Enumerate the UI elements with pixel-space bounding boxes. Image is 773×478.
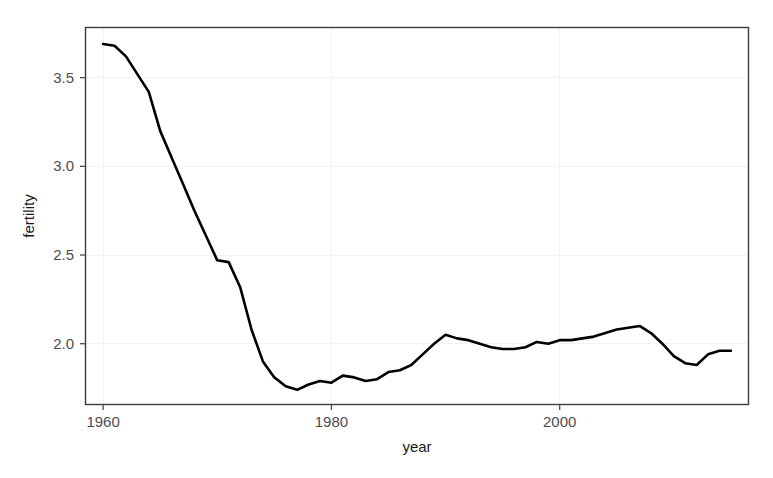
y-axis-title: fertility bbox=[20, 194, 37, 238]
x-tick-label: 1960 bbox=[86, 413, 119, 430]
chart-page: 196019802000 2.02.53.03.5 year fertility bbox=[0, 0, 773, 478]
y-tick-label: 2.5 bbox=[53, 246, 74, 263]
y-tick-label: 3.5 bbox=[53, 69, 74, 86]
chart-background bbox=[0, 0, 773, 478]
x-tick-label: 1980 bbox=[315, 413, 348, 430]
x-axis-title: year bbox=[402, 438, 431, 455]
fertility-line-chart: 196019802000 2.02.53.03.5 year fertility bbox=[0, 0, 773, 478]
x-tick-label: 2000 bbox=[543, 413, 576, 430]
y-tick-label: 3.0 bbox=[53, 157, 74, 174]
y-tick-label: 2.0 bbox=[53, 335, 74, 352]
